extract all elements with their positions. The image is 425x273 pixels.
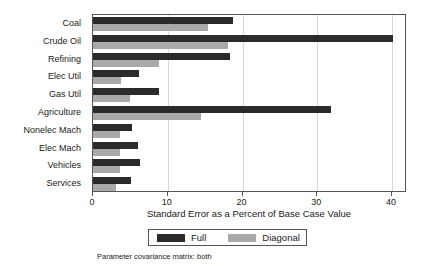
x-axis-tick-label: 10	[152, 197, 182, 207]
legend-swatch-full-icon	[157, 234, 185, 242]
bar-full	[93, 70, 139, 77]
bar-group	[93, 124, 405, 138]
x-axis-tick	[242, 192, 243, 196]
bar-diagonal	[93, 95, 130, 102]
bar-full	[93, 142, 138, 149]
bar-diagonal	[93, 77, 121, 84]
bar-group	[93, 88, 405, 102]
bar-group	[93, 35, 405, 49]
plot-area	[92, 14, 406, 192]
bar-full	[93, 35, 393, 42]
legend-label-diagonal: Diagonal	[262, 232, 300, 243]
x-axis-tick	[391, 192, 392, 196]
legend-item-diagonal: Diagonal	[220, 230, 300, 245]
bar-group	[93, 177, 405, 191]
y-axis-label: Refining	[48, 54, 81, 64]
bar-diagonal	[93, 113, 201, 120]
x-axis-tick	[92, 192, 93, 196]
y-axis-label: Agriculture	[38, 107, 81, 117]
bar-diagonal	[93, 184, 116, 191]
bar-diagonal	[93, 131, 120, 138]
bar-full	[93, 88, 159, 95]
y-axis-label: Coal	[62, 18, 81, 28]
x-axis-tick-label: 20	[227, 197, 257, 207]
bar-group	[93, 53, 405, 67]
y-axis-label: Elec Mach	[39, 143, 81, 153]
x-axis-tick-label: 30	[301, 197, 331, 207]
bar-full	[93, 177, 131, 184]
bar-diagonal	[93, 166, 120, 173]
bar-full	[93, 159, 140, 166]
bar-group	[93, 17, 405, 31]
y-axis-label: Services	[46, 178, 81, 188]
bar-diagonal	[93, 149, 120, 156]
bar-full	[93, 124, 132, 131]
bar-rows	[93, 15, 405, 191]
bar-group	[93, 159, 405, 173]
bar-diagonal	[93, 60, 159, 67]
x-axis-title: Standard Error as a Percent of Base Case…	[92, 208, 406, 219]
x-axis-tick	[316, 192, 317, 196]
bar-full	[93, 106, 331, 113]
legend-swatch-diagonal-icon	[228, 234, 256, 242]
y-axis-label: Nonelec Mach	[23, 125, 81, 135]
bar-chart: CoalCrude OilRefiningElec UtilGas UtilAg…	[0, 0, 425, 273]
bar-diagonal	[93, 42, 228, 49]
chart-legend: Full Diagonal	[148, 229, 307, 246]
bar-group	[93, 70, 405, 84]
y-axis-label: Gas Util	[49, 89, 81, 99]
y-axis-label: Vehicles	[47, 160, 81, 170]
legend-item-full: Full	[149, 230, 206, 245]
bar-group	[93, 106, 405, 120]
x-axis-tick-label: 40	[376, 197, 406, 207]
bar-diagonal	[93, 24, 208, 31]
bar-group	[93, 142, 405, 156]
bar-full	[93, 53, 230, 60]
bar-full	[93, 17, 233, 24]
y-axis-label: Elec Util	[48, 71, 81, 81]
y-axis-labels: CoalCrude OilRefiningElec UtilGas UtilAg…	[0, 14, 88, 192]
y-axis-label: Crude Oil	[43, 36, 81, 46]
chart-caption: Parameter covariance matrix: both	[97, 252, 212, 261]
x-axis-tick-label: 0	[77, 197, 107, 207]
legend-label-full: Full	[191, 232, 206, 243]
x-axis-tick	[167, 192, 168, 196]
